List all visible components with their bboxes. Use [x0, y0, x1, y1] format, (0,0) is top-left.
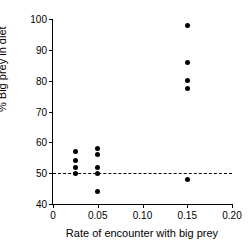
y-axis-tick-label: 90 — [36, 44, 47, 55]
data-point — [95, 152, 100, 157]
x-axis-title: Rate of encounter with big prey — [52, 227, 232, 239]
y-axis-tick-label: 70 — [36, 106, 47, 117]
data-point — [73, 149, 78, 154]
data-point — [95, 165, 100, 170]
x-axis-tick — [143, 204, 144, 208]
reference-line-50-percent — [53, 173, 232, 174]
scatter-plot-figure: 40506070809010000.050.100.150.20 Rate of… — [0, 0, 251, 248]
data-point — [185, 78, 190, 83]
y-axis-tick — [49, 142, 53, 143]
data-point — [185, 177, 190, 182]
x-axis-tick-label: 0.15 — [178, 210, 197, 221]
data-point — [95, 189, 100, 194]
y-axis-tick — [49, 112, 53, 113]
x-axis-tick — [53, 204, 54, 208]
x-axis-tick — [232, 204, 233, 208]
data-point — [185, 86, 190, 91]
x-axis-tick-label: 0.20 — [222, 210, 241, 221]
x-axis-tick — [98, 204, 99, 208]
x-axis-tick-label: 0.10 — [133, 210, 152, 221]
data-point — [73, 165, 78, 170]
data-point — [95, 146, 100, 151]
x-axis-tick-label: 0 — [50, 210, 56, 221]
y-axis-tick — [49, 19, 53, 20]
plot-area: 40506070809010000.050.100.150.20 — [52, 19, 232, 205]
x-axis-tick — [187, 204, 188, 208]
y-axis-tick-label: 50 — [36, 168, 47, 179]
y-axis-tick-label: 100 — [30, 14, 47, 25]
data-point — [185, 23, 190, 28]
y-axis-tick-label: 60 — [36, 137, 47, 148]
y-axis-tick-label: 40 — [36, 199, 47, 210]
y-axis-title: % Big prey in diet — [0, 26, 8, 112]
data-point — [73, 171, 78, 176]
x-axis-tick-label: 0.05 — [88, 210, 107, 221]
data-point — [73, 158, 78, 163]
y-axis-tick — [49, 173, 53, 174]
y-axis-tick-label: 80 — [36, 75, 47, 86]
y-axis-tick — [49, 81, 53, 82]
y-axis-tick — [49, 50, 53, 51]
data-point — [95, 171, 100, 176]
data-point — [185, 60, 190, 65]
